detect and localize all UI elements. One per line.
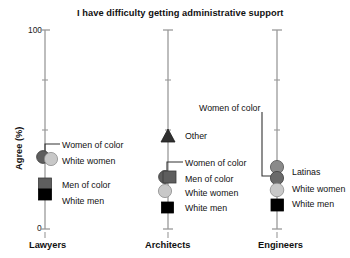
marker-engineers-white-men — [271, 199, 284, 211]
marker-lawyers-white-women — [44, 152, 57, 165]
marker-architects-white-women — [158, 184, 171, 197]
leader-line-lawyers-women-of-color — [45, 144, 60, 152]
plot-area — [0, 0, 350, 258]
leader-line-architects-women-of-color — [167, 162, 183, 172]
marker-architects-men-of-color — [163, 171, 176, 183]
marker-engineers-white-women — [270, 183, 284, 197]
marker-engineers-women-of-color — [270, 171, 283, 184]
axis-spine-lawyers — [40, 30, 50, 238]
marker-lawyers-white-men — [39, 189, 52, 200]
marker-architects-white-men — [162, 202, 174, 213]
marker-lawyers-men-of-color — [39, 178, 52, 189]
chart-container: I have difficulty getting administrative… — [0, 0, 350, 258]
marker-architects-other — [161, 129, 175, 142]
